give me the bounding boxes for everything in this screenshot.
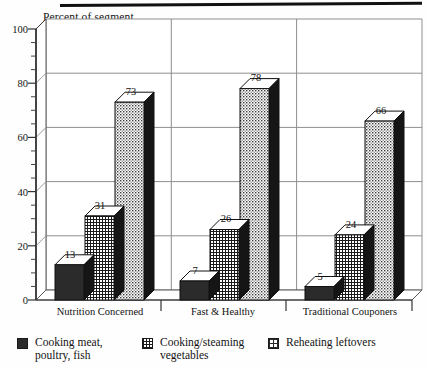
value-label-31: 31	[95, 200, 106, 211]
legend-swatch-grid-icon	[142, 338, 153, 349]
x-category-label-nutrition-concerned: Nutrition Concerned	[57, 306, 144, 317]
legend-label-reheating-leftovers: Reheating leftovers	[286, 336, 376, 349]
y-tick-label-80: 80	[2, 78, 28, 89]
value-label-26: 26	[221, 213, 232, 224]
value-label-7: 7	[192, 265, 197, 276]
x-category-label-fast-and-healthy: Fast & Healthy	[191, 306, 255, 317]
y-tick-label-0: 0	[2, 295, 28, 306]
y-axis	[28, 29, 36, 300]
value-label-5: 5	[317, 271, 322, 282]
x-category-label-traditional-couponers: Traditional Couponers	[303, 306, 397, 317]
legend-label-cooking-meat: Cooking meat, poultry, fish	[35, 336, 103, 362]
y-tick-label-60: 60	[2, 132, 28, 143]
value-label-66: 66	[376, 105, 387, 116]
legend-swatch-solid-icon	[17, 338, 28, 349]
y-tick-label-100: 100	[2, 24, 28, 35]
value-label-73: 73	[126, 86, 137, 97]
y-tick-label-40: 40	[2, 187, 28, 198]
legend-swatch-dots-icon	[268, 338, 279, 349]
legend-item-cooking-steaming-vegetables: Cooking/steaming vegetables	[142, 336, 244, 362]
legend-label-cooking-steaming-vegetables: Cooking/steaming vegetables	[160, 336, 244, 362]
value-label-24: 24	[346, 219, 357, 230]
y-tick-label-20: 20	[2, 241, 28, 252]
legend-item-cooking-meat: Cooking meat, poultry, fish	[17, 336, 103, 362]
legend-item-reheating-leftovers: Reheating leftovers	[268, 336, 376, 349]
chart-legend: Cooking meat, poultry, fish Cooking/stea…	[0, 332, 428, 369]
chart-left-wall	[36, 19, 46, 300]
value-label-13: 13	[65, 249, 76, 260]
bar-cooking-meat-poultry-fish-g3	[305, 277, 344, 301]
value-label-78: 78	[251, 72, 262, 83]
bar-cooking-meat-poultry-fish-g2	[180, 271, 219, 300]
plot-area: 100 80 60 40 20 0 13 31 73 7 26 78 5 24 …	[0, 0, 428, 369]
bar-cooking-meat-poultry-fish-g1	[55, 255, 94, 300]
chart-page: Percent of segment	[0, 0, 428, 369]
